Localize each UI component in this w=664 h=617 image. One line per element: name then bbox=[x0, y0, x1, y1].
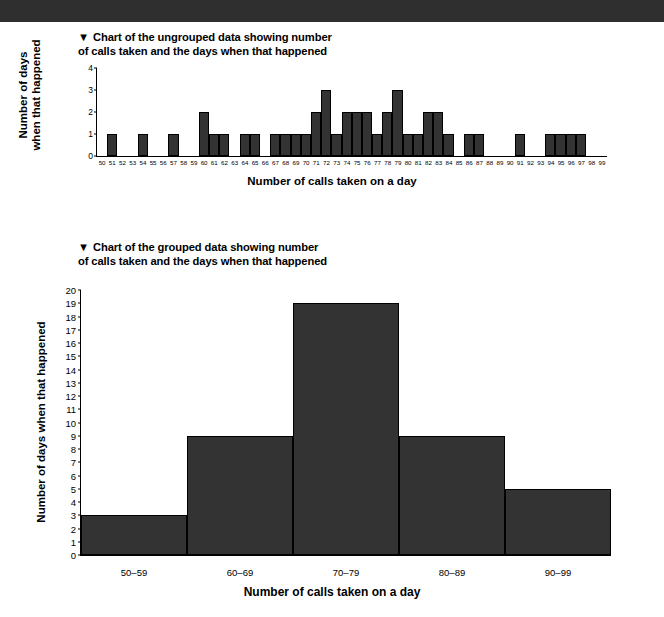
figure2-plot-area: Number of days when that happened 012345… bbox=[0, 282, 664, 602]
x-axis-tick-label: 95 bbox=[558, 156, 565, 166]
chart-bar bbox=[566, 134, 576, 156]
x-axis-tick-label: 60–69 bbox=[227, 555, 253, 578]
y-axis-tick-mark bbox=[78, 356, 81, 357]
figure1-caption-text: Chart of the ungrouped data showing numb… bbox=[78, 31, 332, 57]
x-axis-tick-label: 67 bbox=[272, 156, 279, 166]
x-axis-tick-label: 85 bbox=[456, 156, 463, 166]
x-axis-tick-label: 79 bbox=[394, 156, 401, 166]
chart-bar bbox=[515, 134, 525, 156]
page-header-band bbox=[0, 0, 664, 22]
chart-bar bbox=[352, 112, 362, 156]
chart-bar bbox=[399, 436, 505, 555]
figure2-caption: ▼Chart of the grouped data showing numbe… bbox=[78, 240, 498, 268]
chart-bar bbox=[362, 112, 372, 156]
y-axis-tick-mark bbox=[94, 156, 97, 157]
figure1-caption: ▼Chart of the ungrouped data showing num… bbox=[78, 30, 498, 58]
caption-triangle-icon: ▼ bbox=[78, 30, 89, 44]
chart-bar bbox=[199, 112, 209, 156]
chart-bar bbox=[187, 436, 293, 555]
figure2-axes: 0123456789101112131415161718192050–5960–… bbox=[80, 290, 611, 556]
y-axis-tick-mark bbox=[78, 502, 81, 503]
x-axis-tick-label: 61 bbox=[211, 156, 218, 166]
x-axis-tick-label: 70–79 bbox=[333, 555, 359, 578]
y-axis-tick-mark bbox=[78, 488, 81, 489]
chart-bar bbox=[250, 134, 260, 156]
x-axis-tick-label: 99 bbox=[598, 156, 605, 166]
figure2-y-axis-title: Number of days when that happened bbox=[35, 287, 55, 557]
y-axis-tick-mark bbox=[78, 449, 81, 450]
y-axis-tick-mark bbox=[94, 90, 97, 91]
x-axis-tick-label: 68 bbox=[282, 156, 289, 166]
x-axis-tick-label: 59 bbox=[190, 156, 197, 166]
x-axis-tick-label: 62 bbox=[221, 156, 228, 166]
chart-bar bbox=[372, 134, 382, 156]
page-canvas: ▼Chart of the ungrouped data showing num… bbox=[0, 0, 664, 617]
y-axis-tick-mark bbox=[78, 435, 81, 436]
chart-bar bbox=[464, 134, 474, 156]
x-axis-tick-label: 83 bbox=[435, 156, 442, 166]
x-axis-tick-label: 86 bbox=[466, 156, 473, 166]
x-axis-tick-label: 53 bbox=[129, 156, 136, 166]
chart-bar bbox=[301, 134, 311, 156]
chart-bar bbox=[342, 112, 352, 156]
y-axis-tick-mark bbox=[94, 112, 97, 113]
chart-bar bbox=[423, 112, 433, 156]
chart-bar bbox=[443, 134, 453, 156]
x-axis-tick-label: 96 bbox=[568, 156, 575, 166]
y-axis-tick-mark bbox=[78, 316, 81, 317]
y-axis-tick-mark bbox=[78, 528, 81, 529]
figure2-caption-text: Chart of the grouped data showing number… bbox=[78, 241, 327, 267]
x-axis-tick-label: 51 bbox=[109, 156, 116, 166]
y-axis-tick-mark bbox=[78, 382, 81, 383]
chart-bar bbox=[240, 134, 250, 156]
figure-ungrouped-chart: ▼Chart of the ungrouped data showing num… bbox=[0, 30, 664, 225]
x-axis-tick-label: 84 bbox=[445, 156, 452, 166]
chart-bar bbox=[505, 489, 611, 555]
figure2-x-axis-title: Number of calls taken on a day bbox=[0, 585, 664, 599]
x-axis-tick-label: 72 bbox=[323, 156, 330, 166]
chart-bar bbox=[219, 134, 229, 156]
x-axis-tick-label: 90–99 bbox=[545, 555, 571, 578]
x-axis-tick-label: 57 bbox=[170, 156, 177, 166]
x-axis-tick-label: 76 bbox=[364, 156, 371, 166]
x-axis-tick-label: 54 bbox=[139, 156, 146, 166]
x-axis-tick-label: 66 bbox=[262, 156, 269, 166]
chart-bar bbox=[168, 134, 178, 156]
x-axis-tick-label: 52 bbox=[119, 156, 126, 166]
x-axis-tick-label: 80 bbox=[405, 156, 412, 166]
x-axis-tick-label: 91 bbox=[517, 156, 524, 166]
chart-bar bbox=[413, 134, 423, 156]
x-axis-tick-label: 69 bbox=[292, 156, 299, 166]
chart-bar bbox=[107, 134, 117, 156]
chart-bar bbox=[474, 134, 484, 156]
y-axis-tick-mark bbox=[78, 475, 81, 476]
figure-grouped-chart: ▼Chart of the grouped data showing numbe… bbox=[0, 240, 664, 617]
x-axis-tick-label: 80–89 bbox=[439, 555, 465, 578]
x-axis-tick-label: 70 bbox=[303, 156, 310, 166]
x-axis-tick-label: 55 bbox=[150, 156, 157, 166]
chart-bar bbox=[81, 515, 187, 555]
y-axis-tick-mark bbox=[78, 409, 81, 410]
y-axis-tick-mark bbox=[94, 68, 97, 69]
chart-bar bbox=[280, 134, 290, 156]
y-axis-tick-mark bbox=[78, 422, 81, 423]
x-axis-tick-label: 89 bbox=[496, 156, 503, 166]
x-axis-tick-label: 63 bbox=[231, 156, 238, 166]
y-axis-tick-mark bbox=[78, 515, 81, 516]
chart-bar bbox=[392, 90, 402, 156]
x-axis-tick-label: 58 bbox=[180, 156, 187, 166]
x-axis-tick-label: 65 bbox=[252, 156, 259, 166]
figure1-plot-area: Number of days when that happened 012345… bbox=[0, 68, 664, 223]
figure1-x-axis-title: Number of calls taken on a day bbox=[0, 175, 664, 187]
x-axis-tick-label: 93 bbox=[537, 156, 544, 166]
y-axis-tick-mark bbox=[78, 290, 81, 291]
x-axis-tick-label: 71 bbox=[313, 156, 320, 166]
x-axis-tick-label: 64 bbox=[241, 156, 248, 166]
x-axis-tick-label: 56 bbox=[160, 156, 167, 166]
x-axis-tick-label: 50 bbox=[99, 156, 106, 166]
y-axis-tick-mark bbox=[78, 396, 81, 397]
chart-bar bbox=[291, 134, 301, 156]
figure1-y-axis-title: Number of days when that happened bbox=[17, 30, 47, 160]
x-axis-tick-label: 50–59 bbox=[121, 555, 147, 578]
figure1-bar-group bbox=[97, 68, 606, 156]
